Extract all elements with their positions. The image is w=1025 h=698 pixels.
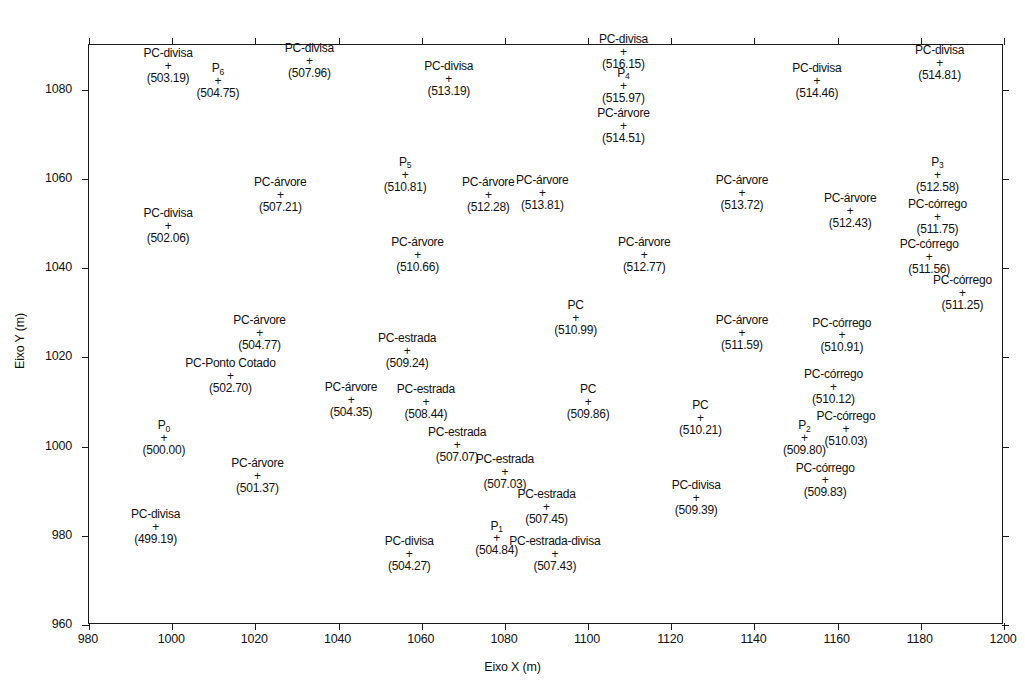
survey-point: PC-árvore+(504.35) bbox=[325, 381, 377, 419]
survey-point: P5+(510.81) bbox=[384, 156, 427, 194]
survey-point-name: PC-divisa bbox=[424, 60, 473, 73]
x-axis-tick-bottom bbox=[754, 623, 755, 630]
y-axis-tick-left bbox=[82, 90, 89, 91]
x-axis-tick-top bbox=[89, 38, 90, 45]
survey-point-name: PC-divisa bbox=[143, 207, 192, 220]
y-axis-tick-label: 1000 bbox=[45, 439, 72, 453]
survey-point: P4+(515.97) bbox=[602, 67, 645, 105]
y-axis-tick-left bbox=[82, 447, 89, 448]
y-axis-tick-right bbox=[1002, 179, 1009, 180]
x-axis-tick-label: 980 bbox=[78, 632, 98, 646]
x-axis-tick-label: 1140 bbox=[740, 632, 766, 646]
y-axis-tick-right bbox=[1002, 357, 1009, 358]
survey-point-elevation: (509.39) bbox=[672, 504, 721, 517]
survey-point-name: PC-árvore bbox=[716, 174, 768, 187]
x-axis-tick-top bbox=[172, 38, 173, 45]
survey-point-elevation: (514.81) bbox=[915, 69, 964, 82]
survey-point-elevation: (510.21) bbox=[679, 424, 722, 437]
y-axis-tick-left bbox=[82, 625, 89, 626]
x-axis-tick-bottom bbox=[588, 623, 589, 630]
survey-point: PC-divisa+(514.81) bbox=[915, 44, 964, 82]
survey-point-name: P6 bbox=[197, 62, 240, 75]
x-axis-tick-top bbox=[1004, 38, 1005, 45]
y-axis-tick-right bbox=[1002, 268, 1009, 269]
survey-point-name: P4 bbox=[602, 67, 645, 80]
survey-point-name: PC-árvore bbox=[462, 176, 514, 189]
survey-point: PC-árvore+(511.59) bbox=[716, 314, 768, 352]
y-axis-title: Eixo Y (m) bbox=[13, 281, 27, 401]
x-axis-tick-label: 1060 bbox=[407, 632, 434, 646]
survey-point: PC-divisa+(507.96) bbox=[285, 42, 334, 80]
y-axis-tick-right bbox=[1002, 536, 1009, 537]
survey-point-name: P2 bbox=[783, 419, 826, 432]
survey-point-elevation: (501.37) bbox=[231, 482, 283, 495]
survey-point: PC-árvore+(512.77) bbox=[618, 236, 670, 274]
survey-point-name: PC-córrego bbox=[796, 462, 855, 475]
survey-point: PC-córrego+(510.12) bbox=[804, 368, 863, 406]
survey-point-name: P3 bbox=[916, 156, 959, 169]
x-axis-tick-bottom bbox=[255, 623, 256, 630]
survey-point: PC-córrego+(510.91) bbox=[812, 317, 871, 355]
x-axis-tick-bottom bbox=[838, 623, 839, 630]
x-axis-tick-label: 1120 bbox=[657, 632, 683, 646]
y-axis-tick-right bbox=[1002, 90, 1009, 91]
x-axis-tick-bottom bbox=[422, 623, 423, 630]
survey-point-elevation: (510.91) bbox=[812, 341, 871, 354]
survey-point-name: PC bbox=[567, 383, 610, 396]
x-axis-title: Eixo X (m) bbox=[0, 660, 1025, 674]
survey-point: P6+(504.75) bbox=[197, 62, 240, 100]
survey-point-elevation: (507.96) bbox=[285, 67, 334, 80]
survey-point-name: PC-divisa bbox=[285, 42, 334, 55]
survey-point-name: PC-árvore bbox=[325, 381, 377, 394]
survey-point-name: PC-árvore bbox=[716, 314, 768, 327]
survey-point: PC-árvore+(512.43) bbox=[824, 192, 876, 230]
survey-point: PC-divisa+(514.46) bbox=[792, 62, 841, 100]
survey-point-elevation: (513.19) bbox=[424, 85, 473, 98]
survey-point: PC+(510.99) bbox=[554, 299, 597, 337]
survey-point: PC-árvore+(512.28) bbox=[462, 176, 514, 214]
y-axis-tick-label: 960 bbox=[52, 617, 72, 631]
x-axis-tick-bottom bbox=[172, 623, 173, 630]
survey-point-elevation: (514.46) bbox=[792, 87, 841, 100]
x-axis-tick-top bbox=[255, 38, 256, 45]
survey-point-elevation: (504.77) bbox=[233, 339, 285, 352]
survey-point-elevation: (512.58) bbox=[916, 181, 959, 194]
y-axis-tick-label: 1060 bbox=[45, 171, 72, 185]
survey-point-name: PC-árvore bbox=[391, 236, 443, 249]
x-axis-tick-label: 1040 bbox=[324, 632, 351, 646]
x-axis-tick-label: 1200 bbox=[989, 632, 1016, 646]
survey-point-elevation: (510.66) bbox=[391, 261, 443, 274]
x-axis-tick-label: 1100 bbox=[574, 632, 600, 646]
survey-point-elevation: (512.77) bbox=[618, 261, 670, 274]
survey-point-name: P5 bbox=[384, 156, 427, 169]
x-axis-tick-top bbox=[671, 38, 672, 45]
y-axis-tick-label: 980 bbox=[52, 528, 72, 542]
y-axis-tick-left bbox=[82, 179, 89, 180]
survey-point-name: PC-córrego bbox=[812, 317, 871, 330]
x-axis-tick-bottom bbox=[505, 623, 506, 630]
survey-point: PC-árvore+(513.72) bbox=[716, 174, 768, 212]
y-axis-tick-label: 1020 bbox=[45, 349, 72, 363]
survey-point-name: PC-divisa bbox=[131, 508, 180, 521]
survey-point-elevation: (502.70) bbox=[185, 382, 275, 395]
survey-point-name: PC-estrada bbox=[397, 383, 455, 396]
survey-point: PC-divisa+(509.39) bbox=[672, 479, 721, 517]
x-axis-tick-top bbox=[505, 38, 506, 45]
x-axis-tick-label: 1020 bbox=[241, 632, 268, 646]
survey-point: PC-Ponto Cotado+(502.70) bbox=[185, 357, 275, 395]
survey-point-name: PC-córrego bbox=[933, 274, 992, 287]
survey-point-elevation: (510.12) bbox=[804, 393, 863, 406]
survey-point-name: PC-árvore bbox=[824, 192, 876, 205]
x-axis-tick-label: 1180 bbox=[907, 632, 933, 646]
x-axis-tick-top bbox=[422, 38, 423, 45]
x-axis-tick-label: 1160 bbox=[824, 632, 850, 646]
survey-point: PC-divisa+(513.19) bbox=[424, 60, 473, 98]
survey-point-elevation: (504.75) bbox=[197, 87, 240, 100]
x-axis-tick-top bbox=[339, 38, 340, 45]
survey-point-plot: PC-divisa+(503.19)P6+(504.75)PC-divisa+(… bbox=[0, 0, 1025, 698]
survey-point: PC-árvore+(507.21) bbox=[254, 176, 306, 214]
x-axis-tick-bottom bbox=[89, 623, 90, 630]
y-axis-tick-left bbox=[82, 268, 89, 269]
x-axis-tick-bottom bbox=[339, 623, 340, 630]
survey-point-name: P1 bbox=[475, 520, 518, 533]
